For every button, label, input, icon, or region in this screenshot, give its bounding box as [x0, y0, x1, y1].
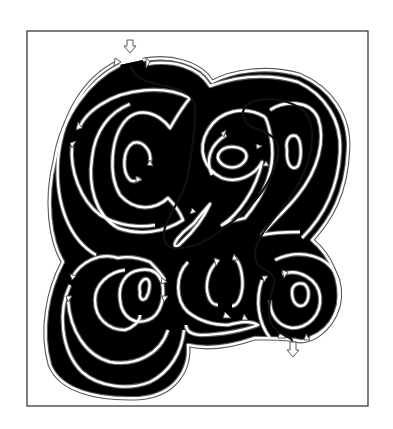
exit-arrow-icon [287, 342, 299, 357]
maze-drawing [0, 0, 393, 429]
entry-arrow-icon [124, 40, 136, 53]
